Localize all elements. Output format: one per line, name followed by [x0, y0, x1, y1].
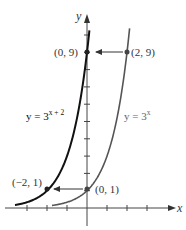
- point-0-9: [85, 50, 90, 55]
- y-axis-label: y: [75, 9, 82, 23]
- exponential-shift-chart: x y (0, 9) (2, 9) (−2, 1) (0, 1) y = 3x …: [0, 0, 186, 230]
- label-point-minus2-1: (−2, 1): [12, 176, 42, 189]
- equation-label-base: y = 3x: [124, 108, 151, 122]
- x-axis-arrow-icon: [168, 205, 176, 211]
- label-point-0-9: (0, 9): [54, 46, 78, 59]
- x-axis-label: x: [176, 201, 183, 215]
- equation-label-shifted: y = 3x + 2: [26, 108, 64, 122]
- point-2-9: [125, 50, 130, 55]
- label-point-2-9: (2, 9): [131, 46, 155, 59]
- label-point-0-1: (0, 1): [95, 183, 119, 196]
- point-minus2-1: [45, 187, 50, 192]
- point-0-1: [85, 187, 90, 192]
- y-axis-arrow-icon: [84, 14, 90, 23]
